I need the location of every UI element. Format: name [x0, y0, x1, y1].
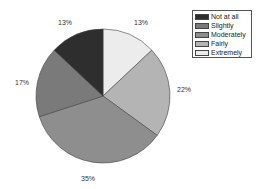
legend-item-slightly: Slightly — [195, 22, 234, 30]
pie-slices — [36, 29, 170, 163]
chart-legend: Not at all Slightly Moderately Fairly Ex… — [192, 10, 252, 58]
slice-label-extremely: 13% — [134, 19, 148, 26]
legend-item-fairly: Fairly — [195, 40, 228, 48]
legend-swatch — [195, 41, 209, 47]
legend-item-extremely: Extremely — [195, 49, 242, 57]
legend-label: Fairly — [211, 40, 228, 48]
legend-label: Extremely — [211, 49, 242, 57]
legend-swatch — [195, 50, 209, 56]
legend-item-moderately: Moderately — [195, 31, 246, 39]
legend-swatch — [195, 23, 209, 29]
legend-label: Not at all — [211, 13, 239, 21]
legend-swatch — [195, 14, 209, 20]
legend-swatch — [195, 32, 209, 38]
slice-label-fairly: 22% — [177, 86, 191, 93]
slice-label-moderately: 35% — [81, 175, 95, 182]
legend-item-not-at-all: Not at all — [195, 13, 239, 21]
slice-label-slightly: 17% — [15, 79, 29, 86]
legend-label: Slightly — [211, 22, 234, 30]
legend-label: Moderately — [211, 31, 246, 39]
slice-label-not-at-all: 13% — [58, 19, 72, 26]
